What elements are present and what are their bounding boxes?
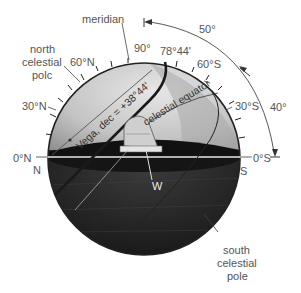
north-pole-label-3: polc bbox=[32, 69, 53, 81]
s60-label: 60°S bbox=[197, 58, 221, 70]
s30-label: 30°S bbox=[235, 100, 259, 112]
arc-40-label: 40° bbox=[270, 101, 287, 113]
n0-label: 0°N bbox=[13, 152, 32, 164]
s0-label: 0°S bbox=[253, 152, 271, 164]
celestial-sphere-diagram: meridian north celestial polc 90° 78°44'… bbox=[0, 0, 301, 293]
south-pole-label-3: pole bbox=[227, 270, 248, 282]
meridian-leader bbox=[122, 23, 129, 60]
south-pole-label-1: south bbox=[223, 244, 250, 256]
north-label: N bbox=[33, 164, 41, 176]
zenith-90-label: 90° bbox=[134, 42, 151, 54]
south-label: S bbox=[240, 165, 247, 177]
n60-label: 60°N bbox=[70, 56, 95, 68]
arc-50-label: 50° bbox=[199, 23, 216, 35]
meridian-label: meridian bbox=[82, 13, 124, 25]
north-pole-label-2: celestial bbox=[22, 56, 62, 68]
n30-label: 30°N bbox=[22, 100, 47, 112]
south-pole-label-2: celestial bbox=[217, 257, 257, 269]
vega-altitude-label: 78°44' bbox=[160, 45, 191, 57]
west-label: W bbox=[152, 180, 163, 192]
north-pole-label-1: north bbox=[30, 43, 55, 55]
